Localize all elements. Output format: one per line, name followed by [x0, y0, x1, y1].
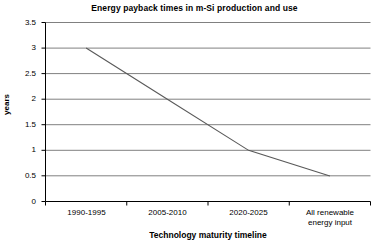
x-tick-label: 2020-2025	[208, 208, 289, 218]
y-tick-label: 1	[4, 146, 36, 154]
chart-figure: Energy payback times in m-Si production …	[0, 0, 389, 249]
y-tick-label: 2.5	[4, 70, 36, 78]
x-tick-label-line1: All renewable	[306, 208, 354, 217]
y-tick-label: 2	[4, 95, 36, 103]
y-axis-ticks	[42, 23, 46, 202]
y-tick-label: 0.5	[4, 172, 36, 180]
x-axis-ticks	[46, 202, 371, 206]
y-tick-label: 0	[4, 198, 36, 206]
y-tick-label: 3	[4, 44, 36, 52]
y-tick-label: 3.5	[4, 19, 36, 27]
y-tick-label: 1.5	[4, 121, 36, 129]
x-tick-label: 2005-2010	[127, 208, 208, 218]
x-tick-label-line2: energy input	[308, 218, 352, 227]
x-tick-label: All renewableenergy input	[289, 208, 371, 227]
x-axis-title: Technology maturity timeline	[45, 230, 371, 240]
plot-background	[46, 23, 371, 202]
x-tick-label: 1990-1995	[46, 208, 127, 218]
